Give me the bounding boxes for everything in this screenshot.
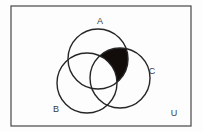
venn-diagram-canvas: A B C U [0, 0, 203, 132]
set-label-c: C [149, 66, 156, 76]
universal-set-label: U [171, 108, 178, 118]
set-label-b: B [53, 104, 59, 114]
venn-diagram-figure: A B C U [0, 0, 203, 132]
set-label-a: A [97, 16, 103, 26]
